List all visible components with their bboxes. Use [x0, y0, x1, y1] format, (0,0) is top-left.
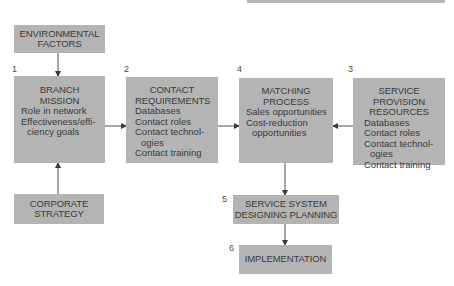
- node-item: Sales opportunities: [246, 107, 333, 118]
- node-item: Contact training: [364, 160, 445, 171]
- node-matching-process: MATCHING PROCESS Sales opportunities Cos…: [239, 78, 333, 163]
- node-item: ciency goals: [21, 127, 105, 138]
- node-title-line: MATCHING: [246, 86, 326, 97]
- node-item: Databases: [135, 106, 218, 117]
- node-title-line: CONTACT: [135, 85, 209, 96]
- node-service-system: SERVICE SYSTEM DESIGNING PLANNING: [233, 195, 339, 224]
- node-item: Contact training: [135, 148, 218, 159]
- step-number-1: 1: [12, 64, 17, 74]
- node-item: Contact roles: [364, 128, 445, 139]
- step-number-3: 3: [348, 64, 353, 74]
- node-item: Contact technol-: [135, 127, 218, 138]
- node-item: Role in network: [21, 106, 105, 117]
- node-title-line: FACTORS: [38, 39, 82, 50]
- node-environmental-factors: ENVIRONMENTAL FACTORS: [14, 25, 105, 53]
- step-number-4: 4: [237, 64, 242, 74]
- step-number-2: 2: [124, 64, 129, 74]
- node-title-line: SERVICE SYSTEM: [245, 199, 327, 210]
- node-title-line: DESIGNING PLANNING: [235, 210, 338, 221]
- node-corporate-strategy: CORPORATE STRATEGY: [14, 194, 104, 224]
- node-item: opportunities: [246, 128, 333, 139]
- node-title-line: SERVICE: [364, 86, 434, 97]
- node-item: ogies: [364, 149, 445, 160]
- step-number-5: 5: [222, 194, 227, 204]
- node-title-line: STRATEGY: [34, 209, 84, 220]
- node-service-provision-resources: SERVICE PROVISION RESOURCES Databases Co…: [353, 78, 445, 165]
- node-title-line: IMPLEMENTATION: [245, 254, 327, 265]
- node-title-line: RESOURCES: [364, 107, 434, 118]
- node-contact-requirements: CONTACT REQUIREMENTS Databases Contact r…: [126, 77, 218, 163]
- node-title-line: BRANCH: [21, 85, 98, 96]
- node-implementation: IMPLEMENTATION: [239, 245, 332, 274]
- step-number-6: 6: [229, 243, 234, 253]
- node-branch-mission: BRANCH MISSION Role in network Effective…: [14, 76, 105, 163]
